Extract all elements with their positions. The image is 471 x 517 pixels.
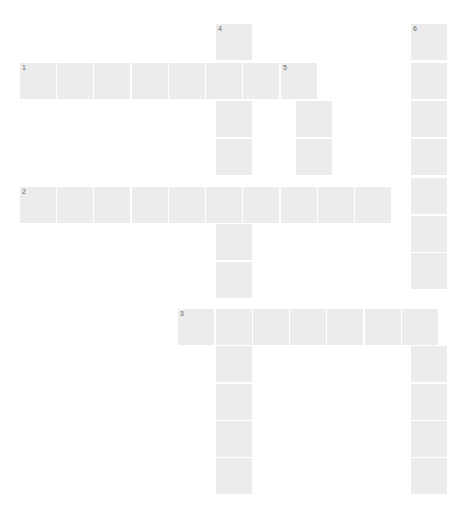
- crossword-cell[interactable]: [215, 420, 253, 458]
- crossword-cell[interactable]: [364, 308, 402, 346]
- crossword-cell[interactable]: [168, 186, 206, 224]
- clue-number-4: 4: [218, 25, 222, 33]
- crossword-cell[interactable]: [215, 383, 253, 421]
- crossword-cell[interactable]: [168, 62, 206, 100]
- crossword-cell[interactable]: [215, 345, 253, 383]
- crossword-cell[interactable]: [410, 177, 448, 215]
- crossword-cell[interactable]: [205, 186, 243, 224]
- crossword-cell[interactable]: [401, 308, 439, 346]
- crossword-cell[interactable]: [205, 62, 243, 100]
- crossword-cell[interactable]: [93, 62, 131, 100]
- crossword-cell[interactable]: [242, 186, 280, 224]
- crossword-cell[interactable]: [317, 186, 355, 224]
- clue-number-3: 3: [180, 310, 184, 318]
- crossword-cell[interactable]: [410, 345, 448, 383]
- crossword-cell[interactable]: [56, 186, 94, 224]
- clue-number-5: 5: [283, 64, 287, 72]
- crossword-cell[interactable]: [215, 261, 253, 299]
- crossword-cell[interactable]: [215, 138, 253, 176]
- crossword-cell[interactable]: [242, 62, 280, 100]
- crossword-cell[interactable]: [410, 420, 448, 458]
- crossword-cell[interactable]: [252, 308, 290, 346]
- crossword-cell[interactable]: [410, 383, 448, 421]
- crossword-cell[interactable]: [410, 100, 448, 138]
- crossword-cell[interactable]: [354, 186, 392, 224]
- crossword-cell[interactable]: [410, 252, 448, 290]
- crossword-cell[interactable]: [93, 186, 131, 224]
- crossword-cell-start-5[interactable]: 5: [280, 62, 318, 100]
- crossword-cell[interactable]: [410, 457, 448, 495]
- crossword-cell[interactable]: [280, 186, 318, 224]
- crossword-cell-start-4[interactable]: 4: [215, 23, 253, 61]
- crossword-cell[interactable]: [410, 62, 448, 100]
- crossword-cell[interactable]: [410, 215, 448, 253]
- crossword-cell[interactable]: [295, 138, 333, 176]
- crossword-cell[interactable]: [215, 223, 253, 261]
- crossword-cell[interactable]: [56, 62, 94, 100]
- crossword-cell-start-6[interactable]: 6: [410, 23, 448, 61]
- crossword-cell[interactable]: [215, 100, 253, 138]
- crossword-cell[interactable]: [289, 308, 327, 346]
- crossword-cell[interactable]: [215, 308, 253, 346]
- crossword-cell[interactable]: [326, 308, 364, 346]
- crossword-cell-start-1[interactable]: 1: [19, 62, 57, 100]
- crossword-cell-start-2[interactable]: 2: [19, 186, 57, 224]
- clue-number-6: 6: [413, 25, 417, 33]
- crossword-cell[interactable]: [295, 100, 333, 138]
- crossword-grid: 152346: [0, 0, 471, 517]
- crossword-cell[interactable]: [215, 457, 253, 495]
- crossword-cell[interactable]: [131, 62, 169, 100]
- crossword-cell-start-3[interactable]: 3: [177, 308, 215, 346]
- crossword-cell[interactable]: [131, 186, 169, 224]
- clue-number-2: 2: [22, 188, 26, 196]
- clue-number-1: 1: [22, 64, 26, 72]
- crossword-cell[interactable]: [410, 138, 448, 176]
